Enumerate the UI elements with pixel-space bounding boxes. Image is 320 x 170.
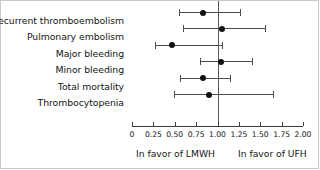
point-estimate-marker	[169, 42, 175, 48]
confidence-interval-row	[0, 39, 320, 53]
point-estimate-marker	[206, 92, 212, 98]
confidence-interval-lower-cap	[180, 75, 181, 82]
confidence-interval-row	[0, 55, 320, 69]
point-estimate-marker	[200, 75, 206, 81]
point-estimate-marker	[200, 10, 206, 16]
confidence-interval-line	[200, 61, 251, 62]
x-axis-line	[132, 126, 303, 127]
x-axis-tick	[196, 122, 197, 126]
confidence-interval-row	[0, 22, 320, 36]
x-axis-tick-label: 0.75	[188, 130, 205, 139]
confidence-interval-line	[155, 45, 222, 46]
confidence-interval-lower-cap	[183, 25, 184, 32]
confidence-interval-line	[179, 12, 240, 13]
x-axis-tick-label: 1.75	[273, 130, 290, 139]
favor-left-caption: In favor of LMWH	[136, 148, 215, 160]
point-estimate-marker	[218, 59, 224, 65]
point-estimate-marker	[219, 26, 225, 32]
confidence-interval-lower-cap	[174, 91, 175, 98]
confidence-interval-row	[0, 72, 320, 86]
confidence-interval-row	[0, 88, 320, 102]
forest-plot-figure: Recurrent thromboembolismPulmonary embol…	[0, 0, 320, 170]
x-axis-tick	[303, 122, 304, 126]
x-axis-tick	[132, 122, 133, 126]
x-axis-tick-label: 1.50	[252, 130, 269, 139]
x-axis-tick	[260, 122, 261, 126]
confidence-interval-upper-cap	[240, 9, 241, 16]
confidence-interval-upper-cap	[230, 75, 231, 82]
x-axis-tick	[218, 122, 219, 126]
confidence-interval-line	[174, 94, 273, 95]
x-axis-tick	[282, 122, 283, 126]
confidence-interval-upper-cap	[265, 25, 266, 32]
x-axis-tick-label: 0.50	[166, 130, 183, 139]
x-axis-tick-label: 2.00	[295, 130, 312, 139]
x-axis-tick	[239, 122, 240, 126]
confidence-interval-upper-cap	[252, 58, 253, 65]
x-axis-tick-label: 0	[130, 130, 135, 139]
confidence-interval-lower-cap	[155, 42, 156, 49]
favor-captions: In favor of LMWH In favor of UFH	[128, 148, 318, 162]
confidence-interval-row	[0, 6, 320, 20]
x-axis-tick-label: 1.25	[230, 130, 247, 139]
confidence-interval-upper-cap	[222, 42, 223, 49]
x-axis-tick-label: 0.25	[145, 130, 162, 139]
favor-right-caption: In favor of UFH	[238, 148, 307, 160]
plot-area: 00.250.500.751.001.251.501.752.00	[0, 0, 320, 170]
confidence-interval-upper-cap	[273, 91, 274, 98]
confidence-interval-lower-cap	[200, 58, 201, 65]
x-axis-tick	[175, 122, 176, 126]
confidence-interval-lower-cap	[179, 9, 180, 16]
x-axis-tick-label: 1.00	[209, 130, 226, 139]
x-axis-tick	[153, 122, 154, 126]
